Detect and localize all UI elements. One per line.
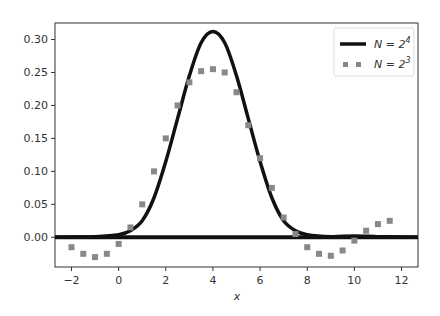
data-point bbox=[186, 79, 192, 85]
legend-swatch-dot bbox=[343, 62, 348, 67]
data-point bbox=[257, 155, 263, 161]
data-point bbox=[222, 69, 228, 75]
data-point bbox=[375, 221, 381, 227]
data-point bbox=[210, 66, 216, 72]
y-tick-label: 0.10 bbox=[24, 165, 49, 178]
x-tick-label: −2 bbox=[63, 274, 79, 287]
chart: −20246810120.000.050.100.150.200.250.30 … bbox=[0, 0, 440, 316]
data-point bbox=[281, 215, 287, 221]
data-point bbox=[316, 251, 322, 257]
x-tick-label: 10 bbox=[347, 274, 361, 287]
data-point bbox=[269, 185, 275, 191]
data-point bbox=[292, 231, 298, 237]
y-tick-label: 0.20 bbox=[24, 99, 49, 112]
legend-label-n-2-4: N = 24 bbox=[374, 36, 411, 51]
x-tick-label: 4 bbox=[209, 274, 216, 287]
data-point bbox=[139, 201, 145, 207]
data-point bbox=[245, 122, 251, 128]
data-point bbox=[328, 253, 334, 259]
y-tick-label: 0.15 bbox=[24, 132, 49, 145]
series-n-2-3-markers bbox=[69, 66, 393, 260]
data-point bbox=[80, 251, 86, 257]
data-point bbox=[127, 224, 133, 230]
data-point bbox=[387, 218, 393, 224]
x-tick-label: 0 bbox=[115, 274, 122, 287]
x-tick-label: 8 bbox=[304, 274, 311, 287]
data-point bbox=[104, 251, 110, 257]
y-tick-label: 0.30 bbox=[24, 33, 49, 46]
x-tick-label: 12 bbox=[395, 274, 409, 287]
data-point bbox=[363, 228, 369, 234]
y-tick-label: 0.00 bbox=[24, 231, 49, 244]
data-point bbox=[175, 102, 181, 108]
legend: N = 24N = 23 bbox=[334, 28, 414, 76]
data-point bbox=[234, 89, 240, 95]
legend-swatch-dot bbox=[356, 62, 361, 67]
data-point bbox=[340, 248, 346, 254]
legend-label-n-2-3: N = 23 bbox=[374, 56, 411, 71]
data-point bbox=[69, 244, 75, 250]
data-point bbox=[151, 168, 157, 174]
x-axis-label: x bbox=[233, 290, 241, 303]
x-tick-label: 2 bbox=[162, 274, 169, 287]
data-point bbox=[116, 241, 122, 247]
data-point bbox=[198, 68, 204, 74]
data-point bbox=[163, 135, 169, 141]
data-point bbox=[92, 254, 98, 260]
data-point bbox=[351, 238, 357, 244]
y-tick-label: 0.05 bbox=[24, 198, 49, 211]
x-tick-label: 6 bbox=[257, 274, 264, 287]
data-point bbox=[304, 244, 310, 250]
y-tick-label: 0.25 bbox=[24, 66, 49, 79]
